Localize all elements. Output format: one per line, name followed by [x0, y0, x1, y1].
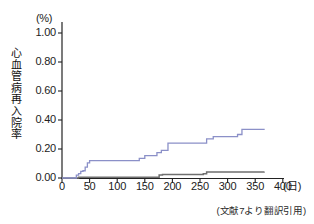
- figure-container: (%) 心 血 管 病 再 入 院 率 1.00 0.80 0.60 0.40 …: [0, 0, 314, 224]
- source-citation: (文献7より翻訳引用): [0, 205, 306, 216]
- x-axis-ticks: [62, 179, 283, 184]
- series-lower-curve: [62, 171, 264, 178]
- series-upper-curve: [62, 129, 264, 178]
- axis-spines: [61, 22, 284, 179]
- plot-area: [0, 0, 314, 224]
